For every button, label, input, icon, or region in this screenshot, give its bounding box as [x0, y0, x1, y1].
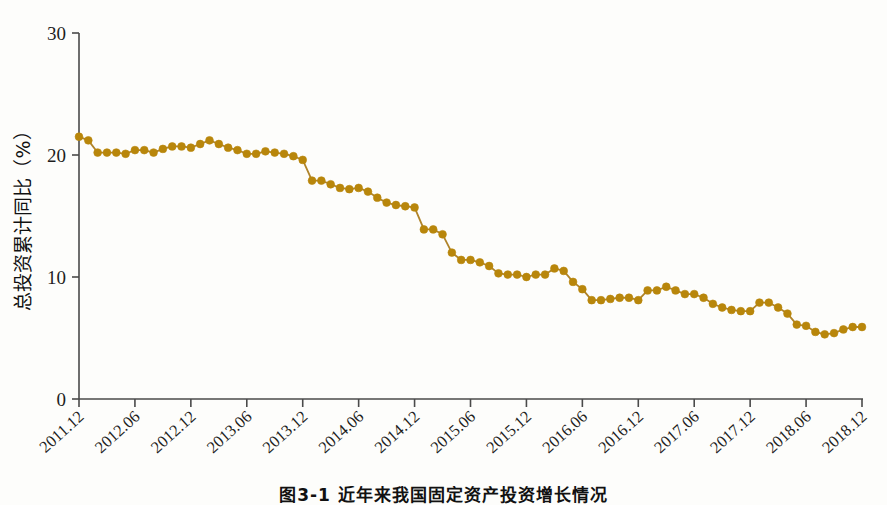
- data-point-marker: [597, 296, 605, 304]
- data-point-marker: [317, 177, 325, 185]
- data-point-marker: [168, 143, 176, 151]
- data-point-marker: [821, 330, 829, 338]
- x-tick-label: 2016.06: [538, 407, 591, 457]
- data-point-marker: [756, 299, 764, 307]
- data-point-marker: [215, 140, 223, 148]
- data-point-marker: [550, 265, 558, 273]
- data-point-marker: [112, 149, 120, 157]
- x-tick-label: 2017.12: [706, 407, 759, 457]
- x-tick-label: 2017.06: [650, 407, 703, 457]
- data-point-marker: [243, 150, 251, 158]
- data-point-marker: [578, 285, 586, 293]
- data-point-marker: [700, 294, 708, 302]
- y-axis: 0102030: [47, 23, 79, 410]
- data-point-marker: [541, 271, 549, 279]
- data-point-marker: [159, 145, 167, 153]
- data-point-marker: [122, 150, 130, 158]
- x-tick-label: 2012.06: [91, 407, 144, 457]
- data-point-marker: [420, 226, 428, 234]
- x-tick-label: 2013.06: [203, 407, 256, 457]
- data-point-marker: [485, 262, 493, 270]
- data-point-marker: [765, 299, 773, 307]
- data-point-marker: [373, 194, 381, 202]
- x-tick-label: 2014.12: [371, 407, 424, 457]
- line-chart: 总投资累计同比（%） 0102030 2011.122012.062012.12…: [0, 0, 887, 505]
- data-point-marker: [606, 295, 614, 303]
- x-axis: 2011.122012.062012.122013.062013.122014.…: [36, 399, 871, 457]
- x-tick-label: 2014.06: [315, 407, 368, 457]
- data-point-marker: [140, 146, 148, 154]
- data-point-marker: [448, 249, 456, 257]
- data-point-marker: [690, 290, 698, 298]
- data-point-marker: [308, 177, 316, 185]
- data-point-marker: [467, 256, 475, 264]
- data-point-marker: [513, 271, 521, 279]
- data-point-marker: [737, 307, 745, 315]
- data-point-marker: [196, 140, 204, 148]
- data-point-marker: [532, 271, 540, 279]
- x-tick-label: 2016.12: [594, 407, 647, 457]
- data-point-marker: [206, 136, 214, 144]
- series-line: [79, 137, 862, 335]
- data-point-marker: [634, 296, 642, 304]
- data-point-marker: [839, 326, 847, 334]
- data-point-marker: [644, 287, 652, 295]
- data-point-marker: [718, 304, 726, 312]
- data-point-marker: [774, 304, 782, 312]
- data-point-marker: [383, 199, 391, 207]
- data-point-marker: [150, 149, 158, 157]
- data-point-marker: [429, 226, 437, 234]
- figure-container: 总投资累计同比（%） 0102030 2011.122012.062012.12…: [0, 0, 887, 505]
- x-tick-label: 2018.12: [818, 407, 871, 457]
- data-point-marker: [355, 184, 363, 192]
- y-tick-label: 30: [47, 23, 66, 44]
- data-point-marker: [457, 256, 465, 264]
- data-point-marker: [681, 290, 689, 298]
- data-point-marker: [289, 152, 297, 160]
- data-point-marker: [588, 296, 596, 304]
- data-series-total-investment-yoy: [75, 133, 866, 338]
- data-point-marker: [709, 300, 717, 308]
- data-point-marker: [802, 322, 810, 330]
- x-tick-label: 2013.12: [259, 407, 312, 457]
- data-point-marker: [784, 310, 792, 318]
- y-tick-label: 10: [47, 267, 66, 288]
- x-tick-label: 2015.06: [427, 407, 480, 457]
- data-point-marker: [364, 188, 372, 196]
- data-point-marker: [495, 269, 503, 277]
- data-point-marker: [103, 149, 111, 157]
- data-point-marker: [94, 149, 102, 157]
- data-point-marker: [224, 144, 232, 152]
- data-point-marker: [84, 136, 92, 144]
- x-tick-label: 2012.12: [147, 407, 200, 457]
- data-point-marker: [234, 146, 242, 154]
- x-tick-label: 2018.06: [762, 407, 815, 457]
- data-point-marker: [411, 204, 419, 212]
- data-point-marker: [560, 267, 568, 275]
- y-tick-label: 0: [57, 389, 67, 410]
- data-point-marker: [336, 184, 344, 192]
- data-point-marker: [280, 150, 288, 158]
- data-point-marker: [728, 306, 736, 314]
- data-point-marker: [746, 307, 754, 315]
- data-point-marker: [299, 156, 307, 164]
- data-point-marker: [75, 133, 83, 141]
- data-point-marker: [858, 323, 866, 331]
- data-point-marker: [187, 144, 195, 152]
- data-point-marker: [830, 329, 838, 337]
- data-point-marker: [131, 146, 139, 154]
- data-point-marker: [439, 230, 447, 238]
- data-point-marker: [252, 150, 260, 158]
- data-point-marker: [392, 201, 400, 209]
- data-point-marker: [504, 271, 512, 279]
- y-tick-label: 20: [47, 145, 66, 166]
- x-tick-label: 2011.12: [36, 407, 88, 457]
- y-axis-title-text: 总投资累计同比（%）: [12, 121, 34, 310]
- data-point-marker: [401, 202, 409, 210]
- data-point-marker: [569, 278, 577, 286]
- x-tick-label: 2015.12: [483, 407, 536, 457]
- data-point-marker: [662, 283, 670, 291]
- data-point-marker: [345, 185, 353, 193]
- data-point-marker: [271, 149, 279, 157]
- figure-caption: 图3-1 近年来我国固定资产投资增长情况: [0, 486, 887, 505]
